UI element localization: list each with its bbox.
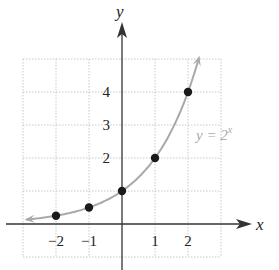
y-tick-label: 2 (103, 150, 111, 166)
curve-equation-base: y = 2 (194, 127, 228, 143)
data-point (151, 154, 159, 162)
curve-y-equals-2-to-x (26, 61, 198, 219)
curve-equation-label: y = 2x (194, 124, 233, 143)
data-point (85, 203, 93, 211)
y-axis-label: y (114, 2, 124, 21)
x-tick-label: −2 (48, 233, 64, 249)
x-axis-label: x (255, 215, 264, 234)
curve-equation-exponent: x (227, 124, 233, 135)
y-tick-label: 3 (103, 117, 111, 133)
data-point (184, 88, 192, 96)
x-tick-label: −1 (81, 233, 97, 249)
x-tick-label: 2 (184, 233, 192, 249)
data-point (118, 187, 126, 195)
exponential-graph: −2−112234 x y y = 2x (0, 0, 279, 270)
x-tick-label: 1 (151, 233, 159, 249)
data-point (52, 212, 60, 220)
y-tick-label: 4 (103, 84, 111, 100)
